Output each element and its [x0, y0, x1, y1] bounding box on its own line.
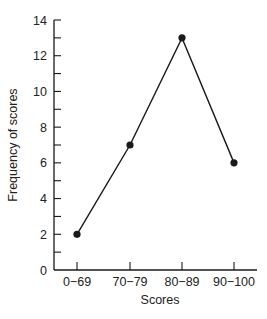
- data-point-marker: [73, 231, 80, 238]
- y-tick-label: 2: [40, 228, 47, 242]
- y-tick-label: 8: [40, 121, 47, 135]
- data-point-marker: [178, 34, 185, 41]
- y-tick-label: 6: [40, 156, 47, 170]
- y-tick-label: 4: [40, 192, 47, 206]
- series-line: [77, 38, 234, 234]
- y-axis-ticks: 02468101214: [33, 14, 61, 278]
- x-tick-label: 70−79: [112, 275, 147, 289]
- x-tick-label: 0−69: [63, 275, 91, 289]
- y-tick-label: 12: [33, 49, 47, 63]
- x-tick-label: 80−89: [164, 275, 199, 289]
- frequency-polygon-chart: 02468101214 0−6970−7980−8990−100 Scores …: [0, 0, 267, 319]
- data-point-marker: [230, 159, 237, 166]
- x-axis-label: Scores: [141, 293, 180, 307]
- x-tick-label: 90−100: [213, 275, 255, 289]
- y-tick-label: 14: [33, 14, 47, 28]
- y-tick-label: 0: [40, 264, 47, 278]
- x-axis-ticks: 0−6970−7980−8990−100: [63, 262, 255, 289]
- data-series: [73, 34, 237, 238]
- data-point-marker: [126, 141, 133, 148]
- y-tick-label: 10: [33, 85, 47, 99]
- y-axis-label: Frequency of scores: [6, 88, 20, 201]
